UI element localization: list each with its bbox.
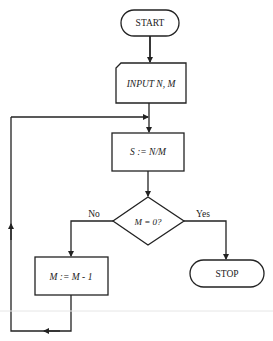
- divide-label: S := N/M: [130, 147, 166, 157]
- stop-label: STOP: [215, 269, 238, 279]
- loop-return-bottom: [11, 117, 71, 331]
- flowchart-canvas: [0, 0, 273, 341]
- no-label: No: [88, 209, 100, 219]
- arrow-yes-branch: [184, 221, 226, 259]
- input-label: INPUT N, M: [127, 79, 176, 89]
- start-label: START: [136, 18, 165, 28]
- yes-label: Yes: [196, 209, 210, 219]
- decrement-label: M := M - 1: [50, 272, 93, 282]
- arrow-no-branch: [71, 221, 113, 256]
- decision-label: M = 0?: [134, 217, 161, 227]
